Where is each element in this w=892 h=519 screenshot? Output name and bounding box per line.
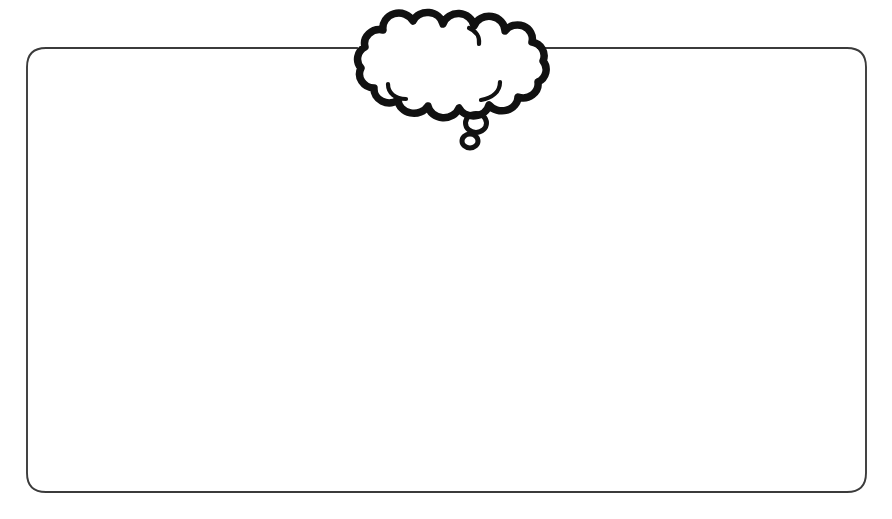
worksheet-canvas: [0, 0, 892, 519]
scene-drawing: [0, 0, 892, 519]
